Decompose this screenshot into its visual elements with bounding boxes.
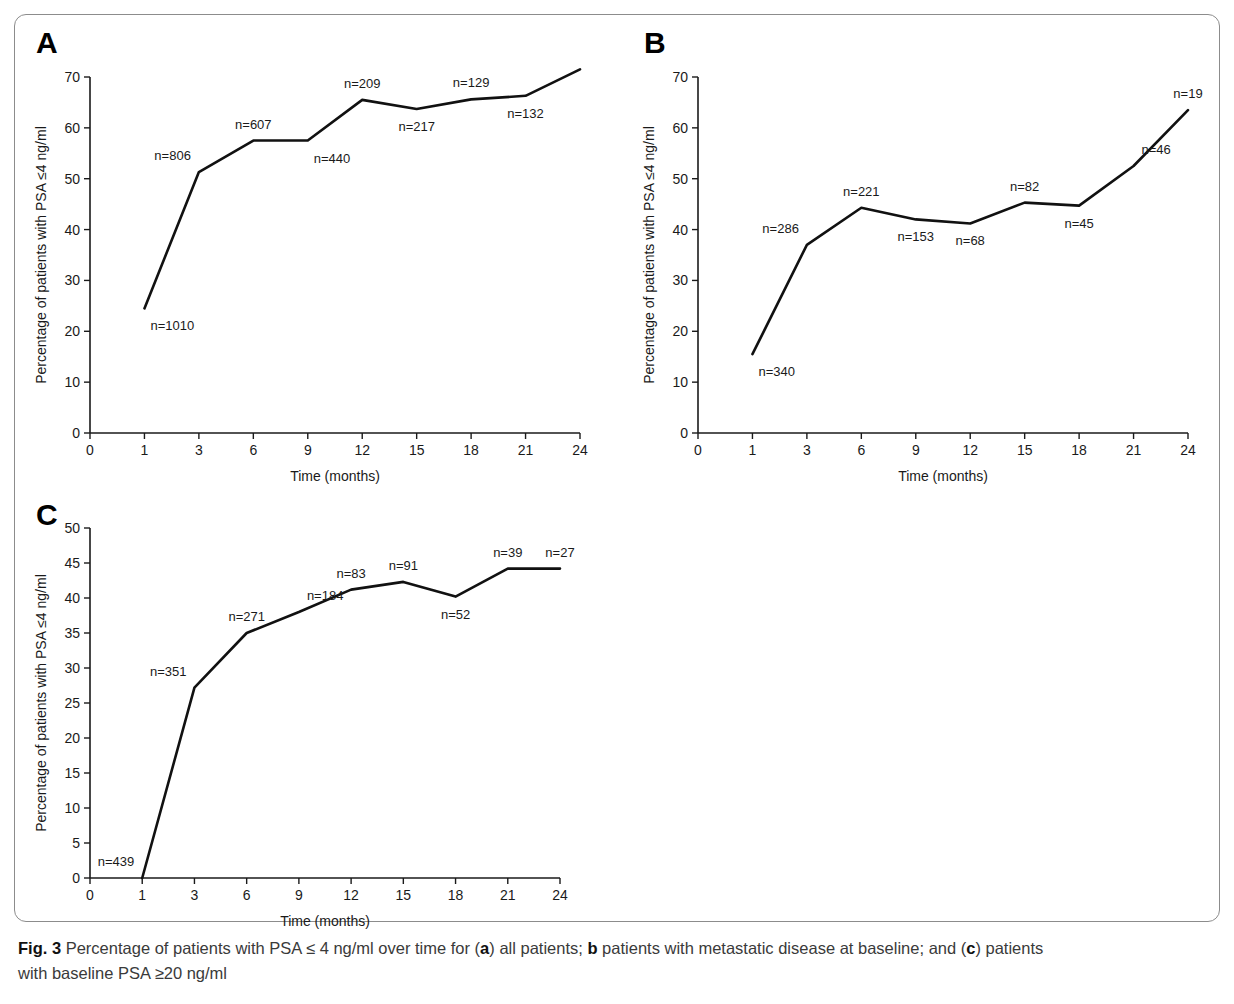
svg-text:50: 50: [64, 171, 80, 187]
caption-ref-a: a: [480, 939, 489, 957]
svg-text:20: 20: [64, 323, 80, 339]
svg-text:40: 40: [64, 222, 80, 238]
svg-text:60: 60: [672, 120, 688, 136]
svg-text:20: 20: [672, 323, 688, 339]
svg-text:21: 21: [518, 442, 534, 458]
caption-ref-b: b: [587, 939, 597, 957]
svg-text:0: 0: [72, 425, 80, 441]
svg-text:6: 6: [249, 442, 257, 458]
svg-text:50: 50: [64, 520, 80, 536]
svg-text:70: 70: [64, 69, 80, 85]
panel-a-chart: 013691215182124010203040506070Time (mont…: [28, 22, 608, 482]
panel-b: B 013691215182124010203040506070Time (mo…: [636, 22, 1216, 482]
svg-text:n=68: n=68: [956, 233, 985, 248]
svg-text:24: 24: [1180, 442, 1196, 458]
panel-c-chart: 01369121518212405101520253035404550Time …: [28, 496, 608, 926]
svg-text:n=82: n=82: [1010, 179, 1039, 194]
caption-part-3: patients with metastatic disease at base…: [598, 939, 967, 957]
svg-text:n=129: n=129: [453, 75, 490, 90]
svg-text:21: 21: [1126, 442, 1142, 458]
svg-text:n=271: n=271: [228, 609, 265, 624]
svg-text:20: 20: [64, 730, 80, 746]
svg-text:50: 50: [672, 171, 688, 187]
svg-text:60: 60: [64, 120, 80, 136]
svg-text:18: 18: [1071, 442, 1087, 458]
svg-text:12: 12: [343, 887, 359, 903]
panel-a: A 013691215182124010203040506070Time (mo…: [28, 22, 608, 482]
figure-root: A 013691215182124010203040506070Time (mo…: [0, 0, 1234, 1004]
svg-text:25: 25: [64, 695, 80, 711]
caption-part-2: ) all patients;: [489, 939, 587, 957]
svg-text:n=1010: n=1010: [150, 318, 194, 333]
panel-b-letter: B: [644, 26, 666, 60]
svg-text:9: 9: [304, 442, 312, 458]
svg-text:5: 5: [72, 835, 80, 851]
svg-text:n=132: n=132: [507, 106, 544, 121]
svg-text:15: 15: [409, 442, 425, 458]
panel-b-chart: 013691215182124010203040506070Time (mont…: [636, 22, 1216, 482]
svg-text:40: 40: [672, 222, 688, 238]
svg-text:6: 6: [243, 887, 251, 903]
svg-text:n=184: n=184: [307, 588, 344, 603]
caption-part-4: ) patients: [975, 939, 1043, 957]
svg-text:21: 21: [500, 887, 516, 903]
svg-text:3: 3: [191, 887, 199, 903]
svg-text:9: 9: [295, 887, 303, 903]
svg-text:n=52: n=52: [441, 607, 470, 622]
svg-text:n=91: n=91: [389, 558, 418, 573]
svg-text:30: 30: [64, 272, 80, 288]
svg-text:n=607: n=607: [235, 117, 272, 132]
svg-text:0: 0: [680, 425, 688, 441]
svg-text:n=217: n=217: [398, 119, 435, 134]
svg-text:35: 35: [64, 625, 80, 641]
svg-text:15: 15: [396, 887, 412, 903]
svg-text:18: 18: [463, 442, 479, 458]
svg-text:15: 15: [1017, 442, 1033, 458]
svg-text:n=153: n=153: [898, 229, 935, 244]
svg-text:1: 1: [749, 442, 757, 458]
svg-text:n=46: n=46: [1142, 142, 1171, 157]
svg-text:n=39: n=39: [493, 545, 522, 560]
svg-text:6: 6: [857, 442, 865, 458]
svg-text:n=286: n=286: [762, 221, 799, 236]
svg-text:24: 24: [572, 442, 588, 458]
svg-text:n=440: n=440: [314, 151, 351, 166]
svg-text:70: 70: [672, 69, 688, 85]
svg-text:n=439: n=439: [98, 854, 135, 869]
svg-text:Percentage of patients with PS: Percentage of patients with PSA ≤4 ng/ml: [33, 126, 49, 384]
svg-text:n=19: n=19: [1173, 86, 1202, 101]
svg-text:40: 40: [64, 590, 80, 606]
svg-text:Percentage of patients with PS: Percentage of patients with PSA ≤4 ng/ml: [33, 574, 49, 832]
svg-text:9: 9: [912, 442, 920, 458]
svg-text:30: 30: [672, 272, 688, 288]
panel-a-letter: A: [36, 26, 58, 60]
panel-c: C 01369121518212405101520253035404550Tim…: [28, 496, 608, 926]
svg-text:3: 3: [195, 442, 203, 458]
svg-text:10: 10: [64, 800, 80, 816]
svg-text:30: 30: [64, 660, 80, 676]
svg-text:n=340: n=340: [758, 364, 795, 379]
svg-text:12: 12: [962, 442, 978, 458]
svg-text:Percentage of patients with PS: Percentage of patients with PSA ≤4 ng/ml: [641, 126, 657, 384]
svg-text:10: 10: [672, 374, 688, 390]
svg-text:3: 3: [803, 442, 811, 458]
svg-text:n=209: n=209: [344, 76, 381, 91]
svg-text:n=45: n=45: [1064, 216, 1093, 231]
svg-text:45: 45: [64, 555, 80, 571]
panel-c-letter: C: [36, 498, 58, 532]
figure-caption: Fig. 3 Percentage of patients with PSA ≤…: [18, 936, 1218, 986]
svg-text:Time (months): Time (months): [280, 913, 370, 929]
svg-text:10: 10: [64, 374, 80, 390]
svg-text:0: 0: [86, 887, 94, 903]
svg-text:1: 1: [138, 887, 146, 903]
caption-part-1: Percentage of patients with PSA ≤ 4 ng/m…: [61, 939, 480, 957]
svg-text:n=806: n=806: [154, 148, 191, 163]
svg-text:1: 1: [141, 442, 149, 458]
svg-text:0: 0: [694, 442, 702, 458]
svg-text:0: 0: [72, 870, 80, 886]
svg-text:24: 24: [552, 887, 568, 903]
svg-text:15: 15: [64, 765, 80, 781]
svg-text:18: 18: [448, 887, 464, 903]
caption-figure-number: Fig. 3: [18, 939, 61, 957]
caption-line-2: with baseline PSA ≥20 ng/ml: [18, 964, 227, 982]
